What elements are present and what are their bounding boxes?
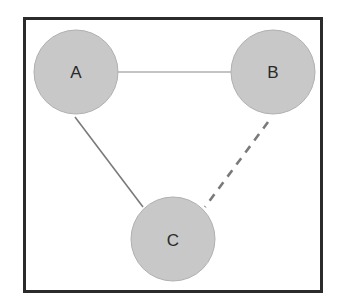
- node-a: A: [34, 30, 118, 114]
- node-a-label: A: [70, 63, 82, 82]
- network-diagram: A B C: [0, 0, 338, 307]
- node-b-label: B: [267, 63, 278, 82]
- node-c: C: [131, 197, 215, 281]
- node-b: B: [231, 30, 315, 114]
- node-c-label: C: [167, 231, 179, 250]
